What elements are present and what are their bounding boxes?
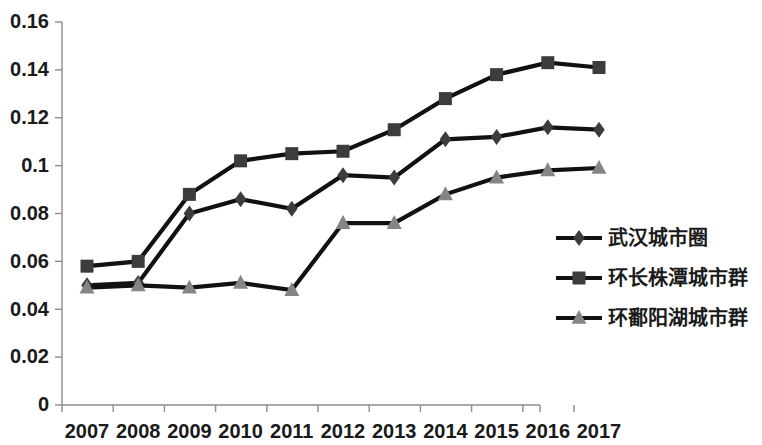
x-tick-label: 2010 xyxy=(218,420,263,442)
y-tick-label: 0.04 xyxy=(10,298,50,320)
x-tick-label: 2012 xyxy=(321,420,366,442)
y-tick-label: 0.06 xyxy=(10,250,49,272)
y-tick-label: 0.02 xyxy=(10,345,49,367)
x-tick-label: 2015 xyxy=(474,420,519,442)
data-point-square xyxy=(439,92,452,105)
x-tick-label: 2008 xyxy=(116,420,161,442)
legend-label: 环鄱阳湖城市群 xyxy=(608,306,748,330)
x-tick-label: 2013 xyxy=(372,420,417,442)
data-point-square xyxy=(234,154,247,167)
data-point-square xyxy=(490,68,503,81)
data-point-square xyxy=(81,260,94,273)
chart-canvas: 00.020.040.060.080.10.120.140.16 2007200… xyxy=(0,0,762,445)
y-tick-label: 0.08 xyxy=(10,202,49,224)
data-point-square xyxy=(388,123,401,136)
x-tick-label: 2014 xyxy=(423,420,468,442)
data-point-square xyxy=(183,188,196,201)
data-point-square xyxy=(573,272,586,285)
data-point-square xyxy=(132,255,145,268)
legend-label: 环长株潭城市群 xyxy=(608,266,748,290)
data-point-square xyxy=(285,147,298,160)
y-tick-label: 0.16 xyxy=(10,10,49,32)
x-tick-label: 2007 xyxy=(65,420,110,442)
legend-label: 武汉城市圈 xyxy=(608,226,708,250)
x-tick-label: 2017 xyxy=(577,420,622,442)
line-chart: 00.020.040.060.080.10.120.140.16 2007200… xyxy=(0,0,762,445)
data-point-square xyxy=(337,145,350,158)
x-tick-label: 2011 xyxy=(270,420,313,442)
y-tick-label: 0 xyxy=(38,393,49,415)
x-tick-label: 2009 xyxy=(167,420,212,442)
y-tick-label: 0.1 xyxy=(21,154,49,176)
x-tick-label: 2016 xyxy=(526,420,571,442)
y-tick-label: 0.14 xyxy=(10,58,50,80)
data-point-square xyxy=(593,61,606,74)
y-tick-label: 0.12 xyxy=(10,106,49,128)
data-point-square xyxy=(541,56,554,69)
